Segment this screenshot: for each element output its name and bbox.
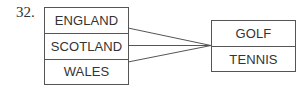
sport-golf: GOLF [212,21,295,46]
sports-box: GOLF TENNIS [211,20,296,72]
mapping-line-england [128,28,211,46]
sport-tennis: TENNIS [212,46,295,71]
mapping-line-wales [128,46,211,63]
